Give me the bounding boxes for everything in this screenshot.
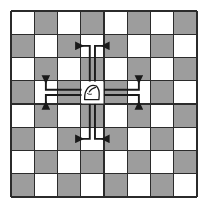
move-arrows-overlay: up 2, left 1up 2, right 1left 2, up 1lef… [0, 0, 210, 215]
knight-piece [82, 82, 104, 104]
knight-move-diagram: up 2, left 1up 2, right 1left 2, up 1lef… [0, 0, 210, 215]
